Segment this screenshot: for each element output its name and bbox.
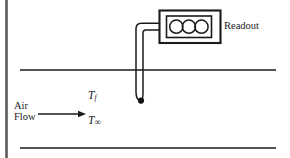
probe-lead-wire-outer (136, 23, 162, 100)
air-flow-label-line2: Flow (14, 111, 36, 122)
thermocouple-probe (136, 23, 162, 100)
air-flow-label-line1: Air (14, 100, 36, 111)
temperature-surface-label: Tf (88, 89, 97, 102)
temperature-freestream-label: T∞ (88, 114, 101, 128)
temperature-freestream-subscript: ∞ (94, 117, 100, 127)
thermocouple-duct-figure: Readout Air Flow Tf T∞ (0, 0, 290, 158)
air-flow-arrow (38, 111, 86, 117)
readout-display-bezel (167, 16, 212, 38)
probe-lead-wire-inner (141, 30, 162, 101)
page-edge-artifact (5, 0, 8, 158)
temperature-surface-subscript: f (94, 93, 96, 102)
thermocouple-junction-bead (138, 98, 144, 104)
air-flow-arrow-head (78, 111, 86, 117)
air-flow-label: Air Flow (14, 100, 36, 122)
readout-label: Readout (224, 20, 259, 31)
